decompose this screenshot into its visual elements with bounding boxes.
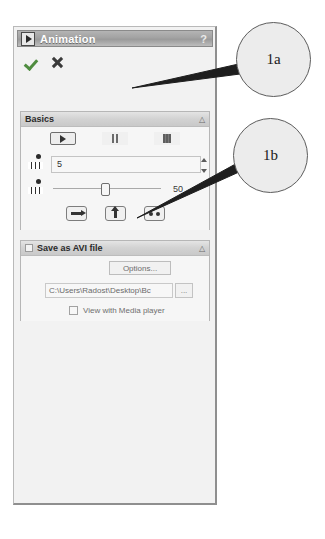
pause-button[interactable]: [102, 132, 128, 145]
step-up-button[interactable]: [105, 206, 126, 221]
rollout-avi-title: Save as AVI file: [37, 243, 199, 253]
panel-title-bar[interactable]: Animation ?: [17, 30, 213, 47]
output-path-input[interactable]: C:\Users\Radost\Desktop\Bc: [45, 283, 173, 298]
callout-1a: 1a: [236, 22, 311, 97]
rollout-basics-title: Basics: [25, 114, 199, 124]
options-button-label: Options...: [123, 264, 157, 273]
output-path-value: C:\Users\Radost\Desktop\Bc: [49, 286, 151, 295]
options-button[interactable]: Options...: [109, 261, 171, 275]
chevron-collapse-icon[interactable]: △: [199, 115, 205, 124]
chevron-collapse-icon[interactable]: △: [199, 244, 205, 253]
rollout-basics-header[interactable]: Basics △: [21, 112, 209, 127]
view-with-media-player-checkbox[interactable]: [69, 306, 78, 315]
callout-leader-1b: [135, 155, 245, 225]
view-with-media-player-label: View with Media player: [83, 306, 165, 315]
callout-leader-1a: [130, 55, 245, 95]
stop-button[interactable]: [154, 132, 180, 145]
film-strip-icon: [27, 183, 44, 196]
browse-button[interactable]: ...: [175, 283, 193, 298]
save-as-avi-checkbox[interactable]: [25, 244, 33, 252]
play-button[interactable]: [50, 132, 76, 145]
play-triangle-icon: [21, 32, 35, 46]
view-with-media-player-row[interactable]: View with Media player: [69, 306, 165, 315]
output-path-row: C:\Users\Radost\Desktop\Bc ...: [45, 283, 193, 298]
film-strip-icon: [27, 158, 44, 171]
page-title: Animation: [40, 33, 200, 45]
callout-1b: 1b: [233, 118, 308, 193]
transport-controls: [21, 132, 209, 145]
rollout-avi-body: Options... C:\Users\Radost\Desktop\Bc ..…: [21, 256, 209, 321]
help-icon[interactable]: ?: [200, 33, 207, 45]
x-icon[interactable]: [50, 56, 64, 70]
animation-command-panel: Animation ? Basics △: [13, 26, 217, 505]
step-forward-button[interactable]: [66, 206, 87, 221]
slider-thumb[interactable]: [101, 183, 110, 196]
rollout-save-as-avi: Save as AVI file △ Options... C:\Users\R…: [20, 240, 210, 321]
check-icon[interactable]: [24, 56, 39, 71]
frames-value: 5: [57, 159, 62, 169]
rollout-avi-header[interactable]: Save as AVI file △: [21, 241, 209, 256]
